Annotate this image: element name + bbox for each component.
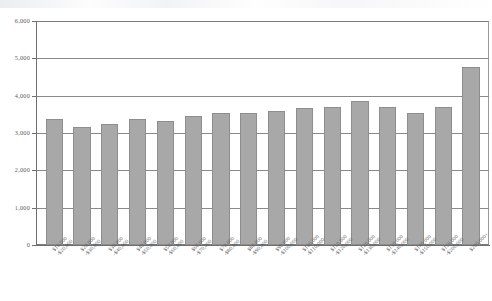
scan-artifact	[0, 0, 492, 8]
bar[interactable]	[296, 108, 313, 245]
x-axis-labels: $10,000-$20,000$20,000-$30,000$30,000-$4…	[37, 246, 489, 301]
bar[interactable]	[240, 113, 257, 245]
y-tick-label: 0	[0, 241, 30, 248]
bar[interactable]	[462, 67, 479, 245]
bar[interactable]	[157, 121, 174, 245]
y-tick-label: 4,000	[0, 92, 30, 99]
bar[interactable]	[212, 113, 229, 245]
y-tick-label: 2,000	[0, 166, 30, 173]
y-tick-label: 3,000	[0, 129, 30, 136]
bar[interactable]	[46, 119, 63, 245]
y-tick-label: 1,000	[0, 204, 30, 211]
y-tick-label: 5,000	[0, 54, 30, 61]
bar[interactable]	[379, 107, 396, 245]
bar[interactable]	[185, 116, 202, 245]
bar[interactable]	[324, 107, 341, 245]
bar[interactable]	[268, 111, 285, 245]
bar[interactable]	[129, 119, 146, 245]
bar[interactable]	[351, 101, 368, 245]
bars-group	[37, 21, 489, 245]
bar[interactable]	[435, 107, 452, 245]
bar-chart: 01,0002,0003,0004,0005,0006,000 $10,000-…	[0, 0, 492, 301]
bar[interactable]	[73, 127, 90, 245]
bar[interactable]	[101, 124, 118, 245]
y-tick-label: 6,000	[0, 17, 30, 24]
bar[interactable]	[407, 113, 424, 245]
